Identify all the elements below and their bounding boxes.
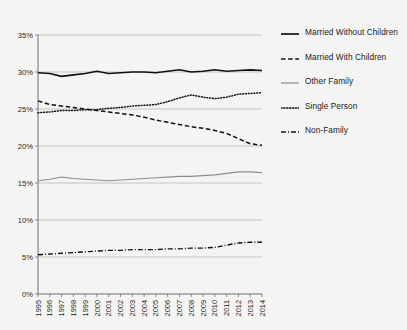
y-tick-label: 5% bbox=[22, 253, 33, 262]
x-tick-label: 2011 bbox=[222, 300, 231, 316]
plot-area: 35%30%25%20%15%10%5%0% 19951996199719981… bbox=[0, 0, 275, 330]
series-line-married-without-children bbox=[38, 70, 262, 77]
legend-item-label: Married With Children bbox=[305, 52, 386, 63]
y-tick-label: 0% bbox=[22, 290, 33, 299]
x-tick-label: 2001 bbox=[104, 300, 113, 316]
y-tick-label: 25% bbox=[18, 105, 33, 114]
legend-item-married-with-children[interactable]: Married With Children bbox=[281, 52, 407, 65]
x-axis-labels: 1995199619971998199920002001200220032004… bbox=[34, 300, 267, 316]
x-tick-label: 2004 bbox=[140, 300, 149, 316]
x-tick-label: 2014 bbox=[258, 300, 267, 316]
y-tick-label: 10% bbox=[18, 216, 33, 225]
x-tick-label: 1996 bbox=[45, 300, 54, 316]
legend-swatch-icon bbox=[281, 28, 299, 40]
x-tick-label: 1998 bbox=[69, 300, 78, 316]
x-tick-label: 2006 bbox=[163, 300, 172, 316]
y-axis-ticks: 35%30%25%20%15%10%5%0% bbox=[18, 31, 38, 299]
y-tick-label: 35% bbox=[18, 31, 33, 40]
x-tick-label: 2003 bbox=[128, 300, 137, 316]
legend-swatch-line bbox=[281, 53, 299, 65]
legend-item-non-family[interactable]: Non-Family bbox=[281, 125, 407, 138]
x-tick-label: 2008 bbox=[187, 300, 196, 316]
legend-item-single-person[interactable]: Single Person bbox=[281, 101, 407, 114]
legend-swatch-icon bbox=[281, 53, 299, 65]
legend-item-label: Married Without Children bbox=[305, 27, 398, 38]
x-tick-label: 1997 bbox=[57, 300, 66, 316]
x-tick-label: 2009 bbox=[199, 300, 208, 316]
x-tick-label: 2013 bbox=[246, 300, 255, 316]
series-line-married-with-children bbox=[38, 101, 262, 145]
x-tick-label: 2005 bbox=[151, 300, 160, 316]
legend-swatch-line bbox=[281, 77, 299, 89]
legend-item-label: Non-Family bbox=[305, 125, 348, 136]
series-line-other-family bbox=[38, 172, 262, 181]
legend-swatch-icon bbox=[281, 102, 299, 114]
legend-item-label: Other Family bbox=[305, 76, 353, 87]
legend-swatch-icon bbox=[281, 126, 299, 138]
line-chart: 35%30%25%20%15%10%5%0% 19951996199719981… bbox=[0, 0, 275, 330]
legend-item-other-family[interactable]: Other Family bbox=[281, 76, 407, 89]
x-tick-label: 1995 bbox=[34, 300, 43, 316]
chart-legend: Married Without Children Married With Ch… bbox=[281, 27, 407, 150]
x-tick-label: 2002 bbox=[116, 300, 125, 316]
chart-page: 35%30%25%20%15%10%5%0% 19951996199719981… bbox=[0, 0, 407, 330]
legend-swatch-line bbox=[281, 126, 299, 138]
legend-swatch-line bbox=[281, 102, 299, 114]
series-lines bbox=[38, 70, 262, 255]
legend-item-married-without-children[interactable]: Married Without Children bbox=[281, 27, 407, 40]
y-tick-label: 30% bbox=[18, 68, 33, 77]
x-tick-label: 2010 bbox=[210, 300, 219, 316]
y-tick-label: 15% bbox=[18, 179, 33, 188]
series-line-non-family bbox=[38, 242, 262, 255]
gridlines bbox=[38, 35, 262, 257]
x-tick-label: 1999 bbox=[81, 300, 90, 316]
legend-item-label: Single Person bbox=[305, 101, 357, 112]
x-tick-label: 2012 bbox=[234, 300, 243, 316]
y-tick-label: 20% bbox=[18, 142, 33, 151]
series-line-single-person bbox=[38, 93, 262, 113]
x-tick-label: 2007 bbox=[175, 300, 184, 316]
x-tick-label: 2000 bbox=[93, 300, 102, 316]
legend-swatch-icon bbox=[281, 77, 299, 89]
legend-swatch-line bbox=[281, 28, 299, 40]
